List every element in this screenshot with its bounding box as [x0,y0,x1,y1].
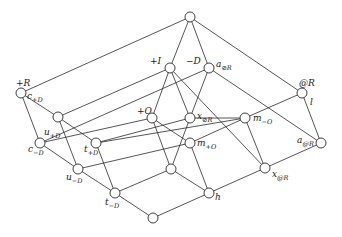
node-aatR [316,138,326,148]
edge-mminusO-xatR [245,118,265,168]
node-bottom [148,213,158,223]
node-label-tminusD: t−D [105,197,120,210]
node-label-minusD: −D [186,56,201,66]
node-plusI [165,63,175,73]
edge-cminusD-uminusD [40,143,78,169]
node-layer [16,12,326,223]
node-label-h: h [215,192,221,202]
a-oR-label: a⊘R [216,59,232,72]
node-mminusO [240,113,250,123]
node-label-mminusO: m−O [253,113,273,126]
node-label-plusR: +R [16,78,31,88]
l-label: l [310,97,313,107]
node-label-uminusD: u−D [66,172,83,185]
edge-layer [21,17,321,218]
node-uminusD [73,164,83,174]
node-label-mplusO: m+O [197,138,217,151]
edge-bottom-h [153,193,209,218]
node-label-atR: @R [299,78,315,88]
edge-tminusD-bottom [115,193,153,218]
hasse-diagram-svg: +I−D+R@Ru+D+Ox⊘Rm−Oc−Dt+Dm+Oa@Ru−Dx@Rt−D… [0,0,342,237]
edge-tplusD-tminusD [96,143,115,193]
node-uplusD [53,112,63,122]
edge-uplusD-uminusD [58,117,78,169]
node-label-uplusD: u+D [44,127,61,140]
edge-mid-h [171,169,209,193]
node-mplusO [185,138,195,148]
node-plusR [16,88,26,98]
edge-minusD-cminusD [40,68,209,143]
node-top [185,12,195,22]
node-label-xOR: x⊘R [197,111,213,124]
node-tminusD [110,188,120,198]
edge-tplusD-mminusO [96,118,245,143]
edge-uminusD-tminusD [78,169,115,193]
c-plusD-label: c+D [27,91,43,104]
lattice-diagram: +I−D+R@Ru+D+Ox⊘Rm−Oc−Dt+Dm+Oa@Ru−Dx@Rt−D… [0,0,342,237]
node-h [204,188,214,198]
edge-top-atR [190,17,302,93]
node-xOR [185,113,195,123]
edge-top-plusR [21,17,190,93]
edge-mplusO-h [190,143,209,193]
node-minusD [204,63,214,73]
edge-plusI-xOR [170,68,190,118]
node-atR [297,88,307,98]
node-xatR [260,163,270,173]
edge-xOR-tplusD [96,118,190,143]
node-mid [166,164,176,174]
label-layer: +I−D+R@Ru+D+Ox⊘Rm−Oc−Dt+Dm+Oa@Ru−Dx@Rt−D… [16,56,315,210]
node-label-plusI: +I [150,56,162,66]
node-tplusD [91,138,101,148]
node-cminusD [35,138,45,148]
edge-tminusD-mid [115,169,171,193]
edge-plusI-plusO [152,68,170,118]
node-label-plusO: +O [137,106,153,116]
edge-xatR-h [209,168,265,193]
node-label-xatR: x@R [272,169,289,182]
